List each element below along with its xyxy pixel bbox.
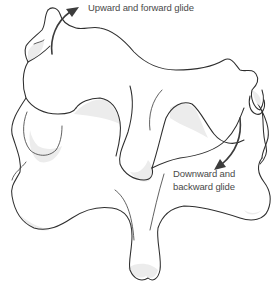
spinous-line-right bbox=[150, 174, 164, 230]
downward-backward-glide-label: Downward and backward glide bbox=[173, 167, 253, 193]
vertebrae-diagram bbox=[0, 0, 280, 290]
upward-forward-glide-label: Upward and forward glide bbox=[88, 1, 194, 14]
lower-right-shade bbox=[244, 210, 262, 215]
upward-arrow-icon bbox=[52, 7, 79, 54]
downward-label-line-2: backward glide bbox=[173, 180, 253, 193]
spinous-tip-shade bbox=[128, 264, 158, 278]
upper-left-body bbox=[23, 62, 76, 114]
upper-body-shade bbox=[170, 104, 208, 138]
downward-label-line-1: Downward and bbox=[173, 167, 253, 180]
upper-inner-line bbox=[150, 90, 163, 130]
upper-vertebra-outline bbox=[48, 8, 263, 110]
lower-left-notch-line bbox=[12, 162, 26, 180]
lower-left-facet-shade bbox=[29, 130, 62, 162]
spinous-line-left bbox=[115, 190, 134, 240]
